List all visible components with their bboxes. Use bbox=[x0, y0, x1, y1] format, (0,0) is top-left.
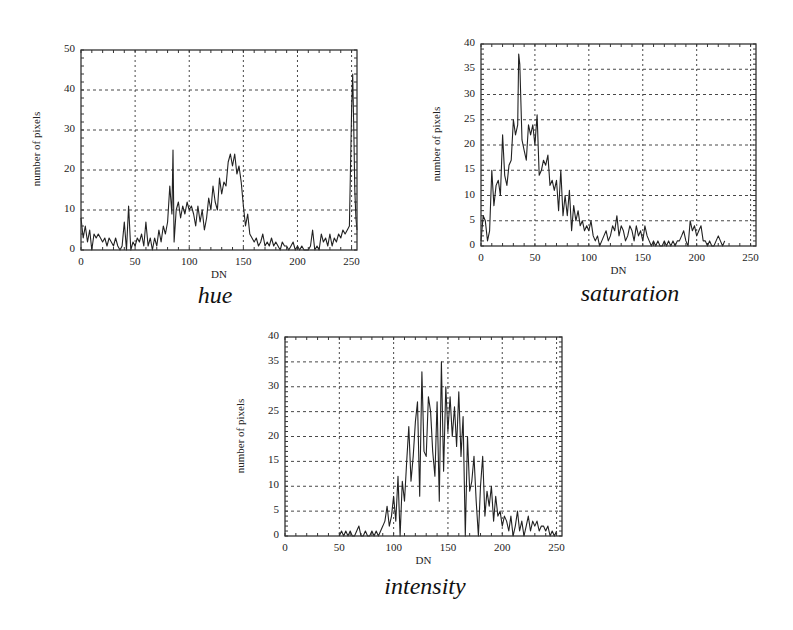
x-tick-label: 50 bbox=[123, 255, 147, 267]
y-tick-label: 35 bbox=[255, 354, 279, 366]
histogram-line bbox=[81, 74, 357, 250]
y-axis-label: number of pixels bbox=[30, 89, 42, 209]
saturation-histogram: 0501001502002500510152025303540DNnumber … bbox=[481, 44, 756, 246]
x-tick-label: 100 bbox=[382, 541, 406, 553]
x-tick-label: 50 bbox=[327, 541, 351, 553]
y-tick-label: 50 bbox=[51, 42, 75, 54]
plot-frame bbox=[81, 50, 357, 250]
x-tick-label: 100 bbox=[577, 251, 601, 263]
histogram-line bbox=[481, 54, 725, 246]
y-tick-label: 20 bbox=[51, 162, 75, 174]
y-tick-label: 20 bbox=[451, 137, 475, 149]
hue-caption: hue bbox=[165, 282, 265, 309]
saturation-caption: saturation bbox=[560, 280, 700, 307]
x-tick-label: 250 bbox=[545, 541, 569, 553]
plot-area bbox=[81, 50, 357, 250]
y-tick-label: 30 bbox=[255, 379, 279, 391]
x-tick-label: 150 bbox=[231, 255, 255, 267]
x-axis-label: DN bbox=[404, 554, 444, 566]
y-axis-label: number of pixels bbox=[234, 376, 246, 496]
x-tick-label: 150 bbox=[631, 251, 655, 263]
x-tick-label: 50 bbox=[523, 251, 547, 263]
y-tick-label: 15 bbox=[255, 453, 279, 465]
plot-area bbox=[481, 44, 756, 246]
x-tick-label: 250 bbox=[739, 251, 763, 263]
hue-histogram: 05010015020025001020304050DNnumber of pi… bbox=[81, 50, 357, 250]
intensity-caption: intensity bbox=[360, 573, 490, 600]
y-tick-label: 20 bbox=[255, 429, 279, 441]
y-tick-label: 25 bbox=[451, 112, 475, 124]
x-tick-label: 250 bbox=[340, 255, 364, 267]
y-tick-label: 30 bbox=[51, 122, 75, 134]
x-tick-label: 200 bbox=[685, 251, 709, 263]
x-tick-label: 150 bbox=[436, 541, 460, 553]
y-tick-label: 10 bbox=[255, 478, 279, 490]
y-tick-label: 15 bbox=[451, 162, 475, 174]
y-tick-label: 0 bbox=[51, 242, 75, 254]
y-tick-label: 40 bbox=[255, 329, 279, 341]
x-tick-label: 100 bbox=[177, 255, 201, 267]
y-tick-label: 25 bbox=[255, 404, 279, 416]
x-tick-label: 0 bbox=[469, 251, 493, 263]
y-tick-label: 5 bbox=[255, 503, 279, 515]
y-axis-label: number of pixels bbox=[430, 84, 442, 204]
y-tick-label: 10 bbox=[451, 188, 475, 200]
plot-area bbox=[285, 337, 562, 536]
x-tick-label: 0 bbox=[69, 255, 93, 267]
x-tick-label: 200 bbox=[285, 255, 309, 267]
y-tick-label: 0 bbox=[451, 238, 475, 250]
y-tick-label: 40 bbox=[51, 82, 75, 94]
y-tick-label: 0 bbox=[255, 528, 279, 540]
y-tick-label: 10 bbox=[51, 202, 75, 214]
intensity-histogram: 0501001502002500510152025303540DNnumber … bbox=[285, 337, 562, 536]
x-axis-label: DN bbox=[599, 264, 639, 276]
x-tick-label: 0 bbox=[273, 541, 297, 553]
y-tick-label: 40 bbox=[451, 36, 475, 48]
y-tick-label: 5 bbox=[451, 213, 475, 225]
x-axis-label: DN bbox=[199, 268, 239, 280]
y-tick-label: 30 bbox=[451, 87, 475, 99]
plot-frame bbox=[481, 44, 756, 246]
x-tick-label: 200 bbox=[490, 541, 514, 553]
y-tick-label: 35 bbox=[451, 61, 475, 73]
